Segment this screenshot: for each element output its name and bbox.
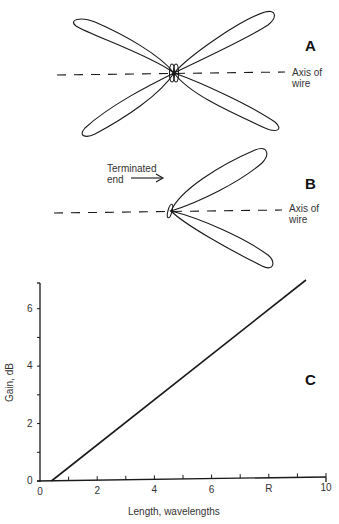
y-tick-label: 2 [27,418,33,429]
x-tick-label: R [265,483,272,494]
pattern-b [54,149,282,268]
x-tick-label: 10 [320,482,331,493]
chart-axes [37,283,326,482]
gain-line [51,280,306,481]
panel-label-b: B [305,175,316,192]
y-tick-label: 6 [27,303,33,314]
x-tick-label: 4 [152,484,158,495]
figure-canvas [0,0,339,524]
x-tick-label: 2 [94,485,100,496]
feed-point-a [172,71,176,75]
x-axis-label: Length, wavelengths [128,506,220,517]
panel-label-c: C [305,371,316,388]
terminated-label-line2: end [107,174,124,185]
y-tick-label: 0 [27,475,33,486]
axis-label-a-line2: wire [292,78,310,89]
panel-label-a: A [305,37,316,54]
y-tick-label: 4 [27,360,33,371]
axis-label-a-line1: Axis of [292,67,322,78]
x-tick-label: 0 [37,486,43,497]
chart-ticks [37,309,326,481]
x-tick-label: 6 [209,484,215,495]
y-axis-label: Gain, dB [4,363,15,402]
terminated-label-line1: Terminated [107,163,156,174]
x-axis [37,477,326,481]
pattern-a [57,11,285,136]
axis-label-b-line1: Axis of [289,203,319,214]
axis-label-b-line2: wire [289,214,307,225]
